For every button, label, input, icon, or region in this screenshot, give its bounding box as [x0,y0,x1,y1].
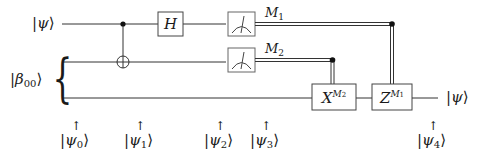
output-psi: |ψ⟩ [446,90,469,105]
input-psi: |ψ⟩ [32,16,55,31]
hadamard-label: H [158,17,183,32]
state-psi2: |ψ2⟩ [204,133,233,150]
meter-icon-2 [228,48,255,72]
measurement-label-m2: M2 [265,42,284,58]
state-psi1: |ψ1⟩ [124,133,153,150]
brace-icon: { [53,52,73,104]
state-psi0: |ψ0⟩ [60,133,89,150]
x-gate-label: XM2 [312,90,356,106]
state-psi4: |ψ4⟩ [417,133,446,150]
meter-icon-1 [228,12,255,36]
state-psi3: |ψ3⟩ [250,133,279,150]
classical-control-m1 [389,21,395,27]
input-beta00: |β00⟩ [10,72,42,89]
z-gate-label: ZM1 [372,90,412,106]
cnot-control-dot [120,21,125,26]
classical-control-m2 [330,57,336,63]
measurement-label-m1: M1 [265,6,284,22]
